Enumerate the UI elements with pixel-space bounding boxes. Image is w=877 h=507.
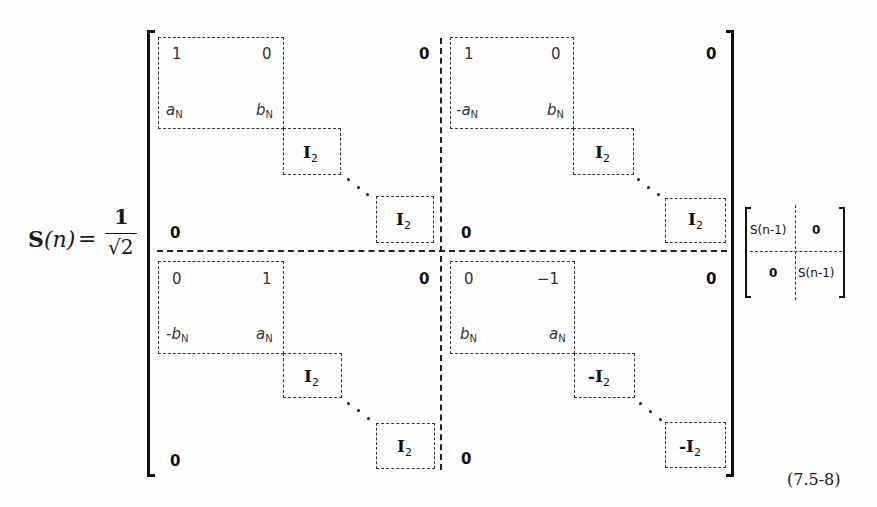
lhs-symbol: S	[28, 226, 44, 252]
identity-block: I2	[688, 211, 703, 231]
diagonal-dot	[366, 193, 369, 196]
matrix-entry: aN	[166, 103, 183, 120]
matrix-entry: 0	[262, 47, 272, 62]
matrix-entry: 1	[464, 47, 474, 62]
diagonal-dot	[639, 402, 642, 405]
matrix-entry: aN	[256, 327, 273, 344]
diagonal-dot	[657, 193, 660, 196]
equation-number: (7.5-8)	[787, 472, 841, 488]
matrix-entry: -aN	[456, 103, 478, 120]
small-matrix-entry: 0	[769, 267, 777, 279]
zero-block: 0	[419, 272, 429, 287]
matrix-entry: bN	[547, 103, 564, 120]
fraction-denominator: √2	[108, 237, 133, 257]
diagonal-dot	[649, 410, 652, 413]
zero-block: 0	[170, 226, 180, 241]
lhs-expression: S(n)	[28, 228, 75, 251]
block-horizontal-divider	[157, 250, 727, 252]
small-matrix-entry: S(n-1)	[798, 267, 835, 279]
matrix-entry: bN	[460, 327, 477, 344]
zero-block: 0	[706, 272, 716, 287]
zero-block: 0	[419, 47, 429, 62]
identity-block: -I2	[588, 368, 610, 388]
diagonal-dot	[357, 186, 360, 189]
identity-block: I2	[396, 211, 411, 231]
diagonal-dot	[659, 418, 662, 421]
identity-block: I2	[303, 144, 318, 164]
identity-block: I2	[397, 438, 412, 458]
matrix-entry: bN	[256, 103, 273, 120]
matrix-entry: aN	[549, 327, 566, 344]
small-matrix-entry: 0	[812, 224, 820, 236]
small-matrix-entry: S(n-1)	[750, 224, 787, 236]
fraction: 1 √2	[105, 206, 137, 266]
matrix-entry: 1	[262, 272, 272, 287]
zero-block: 0	[170, 454, 180, 469]
lhs-argument: (n)	[44, 227, 75, 252]
diagonal-dot	[347, 402, 350, 405]
small-matrix-left-bracket	[745, 207, 751, 298]
diagonal-dot	[637, 178, 640, 181]
big-matrix-right-bracket	[726, 30, 734, 477]
zero-block: 0	[706, 47, 716, 62]
fraction-bar	[105, 233, 137, 234]
zero-block: 0	[461, 226, 471, 241]
zero-block: 0	[461, 452, 471, 467]
diagonal-dot	[347, 178, 350, 181]
block-vertical-divider	[440, 38, 442, 470]
small-matrix-vertical-divider	[795, 205, 796, 300]
diagonal-dot	[367, 417, 370, 420]
identity-block: -I2	[679, 438, 701, 458]
matrix-entry: -bN	[166, 327, 188, 344]
diagonal-dot	[647, 186, 650, 189]
fraction-numerator: 1	[114, 206, 129, 227]
matrix-entry: 0	[551, 47, 561, 62]
matrix-entry: 1	[172, 47, 182, 62]
matrix-entry: 0	[464, 272, 474, 287]
matrix-entry: −1	[537, 272, 559, 287]
big-matrix-left-bracket	[147, 30, 155, 477]
matrix-entry: 0	[172, 272, 182, 287]
identity-block: I2	[304, 368, 319, 388]
small-matrix-horizontal-divider	[750, 251, 842, 252]
equals-sign: =	[78, 228, 96, 250]
diagonal-dot	[357, 409, 360, 412]
small-matrix-right-bracket	[839, 207, 845, 298]
identity-block: I2	[595, 144, 610, 164]
